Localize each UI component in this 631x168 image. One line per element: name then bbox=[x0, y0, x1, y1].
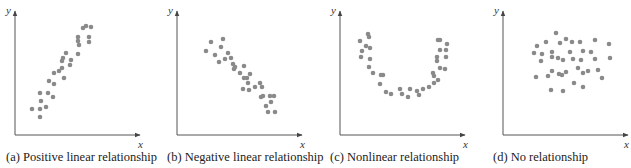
data-point bbox=[52, 71, 57, 76]
data-point bbox=[39, 99, 44, 104]
data-point bbox=[438, 38, 443, 43]
data-point bbox=[540, 52, 545, 57]
data-point bbox=[68, 63, 73, 68]
data-point bbox=[421, 87, 426, 92]
data-point bbox=[417, 93, 422, 98]
data-point bbox=[398, 87, 403, 92]
data-point bbox=[532, 51, 537, 56]
data-point bbox=[209, 40, 214, 45]
data-point bbox=[76, 35, 81, 40]
data-point bbox=[435, 55, 440, 60]
data-point bbox=[579, 58, 584, 63]
data-point bbox=[445, 42, 450, 47]
data-point bbox=[213, 53, 218, 58]
data-point bbox=[69, 58, 74, 63]
data-point bbox=[242, 64, 247, 69]
data-point bbox=[432, 74, 437, 79]
data-point bbox=[546, 74, 551, 79]
data-point bbox=[415, 89, 420, 94]
data-point bbox=[443, 67, 448, 72]
panel-c-ylabel: y bbox=[330, 4, 336, 16]
data-point bbox=[253, 85, 258, 90]
data-point bbox=[229, 56, 234, 61]
data-point bbox=[381, 73, 386, 78]
data-point bbox=[269, 100, 274, 105]
data-point bbox=[570, 40, 575, 45]
data-point bbox=[358, 39, 363, 44]
data-point bbox=[248, 72, 253, 77]
data-point bbox=[38, 107, 43, 112]
panel-d-xlabel: x bbox=[623, 138, 629, 150]
data-point bbox=[47, 79, 52, 84]
panel-d-points bbox=[532, 31, 613, 94]
data-point bbox=[384, 90, 389, 95]
panel-b-points bbox=[204, 37, 278, 115]
data-point bbox=[364, 44, 369, 49]
data-point bbox=[549, 88, 554, 93]
data-point bbox=[204, 49, 209, 54]
data-point bbox=[581, 49, 586, 54]
panel-a-points bbox=[30, 24, 94, 120]
data-point bbox=[76, 52, 81, 57]
panel-c-xlabel: x bbox=[462, 138, 468, 150]
panel-a-caption: (a) Positive linear relationship bbox=[6, 150, 157, 165]
data-point bbox=[367, 65, 372, 70]
data-point bbox=[233, 65, 238, 70]
panel-a-axes: y x bbox=[5, 4, 143, 150]
data-point bbox=[221, 37, 226, 42]
data-point bbox=[438, 66, 443, 71]
panel-a-xlabel: x bbox=[137, 138, 143, 150]
panel-b-ylabel: y bbox=[167, 4, 173, 16]
data-point bbox=[371, 71, 376, 76]
data-point bbox=[556, 56, 561, 61]
data-point bbox=[550, 55, 555, 60]
data-point bbox=[378, 82, 383, 87]
panel-c-axes: y x bbox=[330, 4, 468, 150]
data-point bbox=[238, 71, 243, 76]
data-point bbox=[408, 87, 413, 92]
data-point bbox=[62, 76, 67, 81]
data-point bbox=[247, 88, 252, 93]
data-point bbox=[444, 48, 449, 53]
data-point bbox=[76, 39, 81, 44]
data-point bbox=[578, 40, 583, 45]
data-point bbox=[444, 55, 449, 60]
data-point bbox=[581, 85, 586, 90]
data-point bbox=[561, 58, 566, 63]
panel-c-caption: (c) Nonlinear relationship bbox=[330, 150, 459, 165]
data-point bbox=[593, 57, 598, 62]
data-point bbox=[427, 85, 432, 90]
data-point bbox=[38, 115, 43, 120]
data-point bbox=[219, 45, 224, 50]
data-point bbox=[360, 49, 365, 54]
data-point bbox=[87, 40, 92, 45]
data-point bbox=[607, 42, 612, 47]
data-point bbox=[359, 55, 364, 60]
data-point bbox=[558, 41, 563, 46]
data-point bbox=[435, 59, 440, 64]
data-point bbox=[593, 38, 598, 43]
panel-d-caption: (d) No relationship bbox=[493, 150, 588, 165]
data-point bbox=[571, 57, 576, 62]
data-point bbox=[223, 57, 228, 62]
panel-b-xlabel: x bbox=[299, 138, 305, 150]
data-point bbox=[89, 25, 94, 30]
data-point bbox=[368, 57, 373, 62]
panel-b-caption: (b) Negative linear relationship bbox=[167, 150, 324, 165]
data-point bbox=[568, 50, 573, 55]
data-point bbox=[77, 43, 82, 48]
data-point bbox=[561, 89, 566, 94]
data-point bbox=[241, 87, 246, 92]
data-point bbox=[30, 107, 35, 112]
data-point bbox=[273, 110, 278, 115]
scatter-figure: y x y x y x y x bbox=[0, 0, 631, 168]
data-point bbox=[64, 51, 69, 56]
data-point bbox=[61, 56, 66, 61]
data-point bbox=[572, 81, 577, 86]
data-point bbox=[576, 66, 581, 71]
panel-d-ylabel: y bbox=[493, 4, 499, 16]
data-point bbox=[589, 50, 594, 55]
data-point bbox=[438, 48, 443, 53]
data-point bbox=[258, 81, 263, 86]
data-point bbox=[264, 104, 269, 109]
